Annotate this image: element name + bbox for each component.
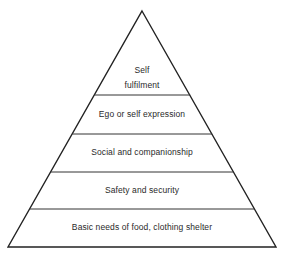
level-self-fulfilment-line1: Self (134, 65, 149, 75)
level-social: Social and companionship (91, 147, 193, 157)
level-ego: Ego or self expression (99, 109, 185, 119)
pyramid-triangle (8, 11, 276, 247)
level-safety: Safety and security (105, 185, 179, 195)
level-basic-needs: Basic needs of food, clothing shelter (72, 222, 212, 232)
pyramid-outline (0, 0, 285, 258)
level-self-fulfilment-line2: fulfilment (124, 80, 159, 90)
